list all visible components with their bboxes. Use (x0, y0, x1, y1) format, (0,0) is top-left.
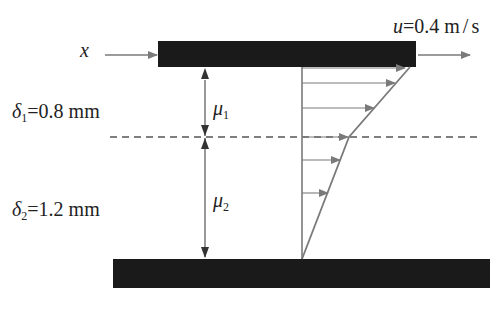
layer1-viscosity-label: μ1 (213, 98, 229, 121)
plate-velocity-label: u=0.4 m / s (393, 16, 478, 36)
layer1-dimension (201, 68, 209, 136)
layer2-thickness-label: δ2=1.2 mm (12, 199, 100, 222)
layer2-dimension (201, 138, 209, 258)
velocity-profile (302, 67, 410, 259)
couette-flow-diagram: x u=0.4 m / s δ1=0.8 mm δ2=1.2 mm μ1 μ2 (0, 0, 501, 316)
bottom-plate (113, 259, 490, 288)
layer2-viscosity-label: μ2 (213, 190, 229, 213)
x-axis-label: x (80, 40, 89, 60)
top-plate (158, 41, 416, 67)
layer1-thickness-label: δ1=0.8 mm (12, 101, 100, 124)
